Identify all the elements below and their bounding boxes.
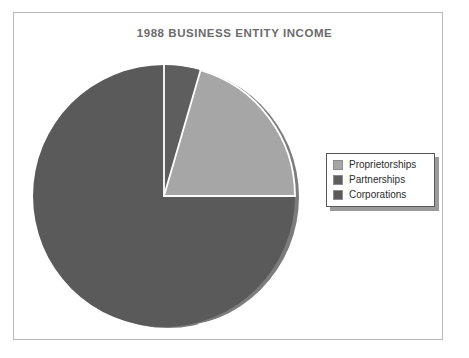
chart-legend: Proprietorships Partnerships Corporation… xyxy=(326,153,439,211)
legend-label-corporations: Corporations xyxy=(349,189,406,201)
legend-swatch-corporations xyxy=(333,190,343,200)
legend-items: Proprietorships Partnerships Corporation… xyxy=(326,153,435,207)
legend-label-partnerships: Partnerships xyxy=(349,174,405,186)
legend-label-proprietorships: Proprietorships xyxy=(349,159,416,171)
legend-item-corporations[interactable]: Corporations xyxy=(333,188,435,202)
legend-swatch-proprietorships xyxy=(333,160,343,170)
pie-svg xyxy=(30,56,320,346)
pie-chart xyxy=(30,56,320,346)
legend-swatch-partnerships xyxy=(333,175,343,185)
legend-item-proprietorships[interactable]: Proprietorships xyxy=(333,158,435,172)
legend-item-partnerships[interactable]: Partnerships xyxy=(333,173,435,187)
chart-title: 1988 BUSINESS ENTITY INCOME xyxy=(0,27,469,39)
chart-figure: 1988 BUSINESS ENTITY INCOME xyxy=(0,0,469,358)
